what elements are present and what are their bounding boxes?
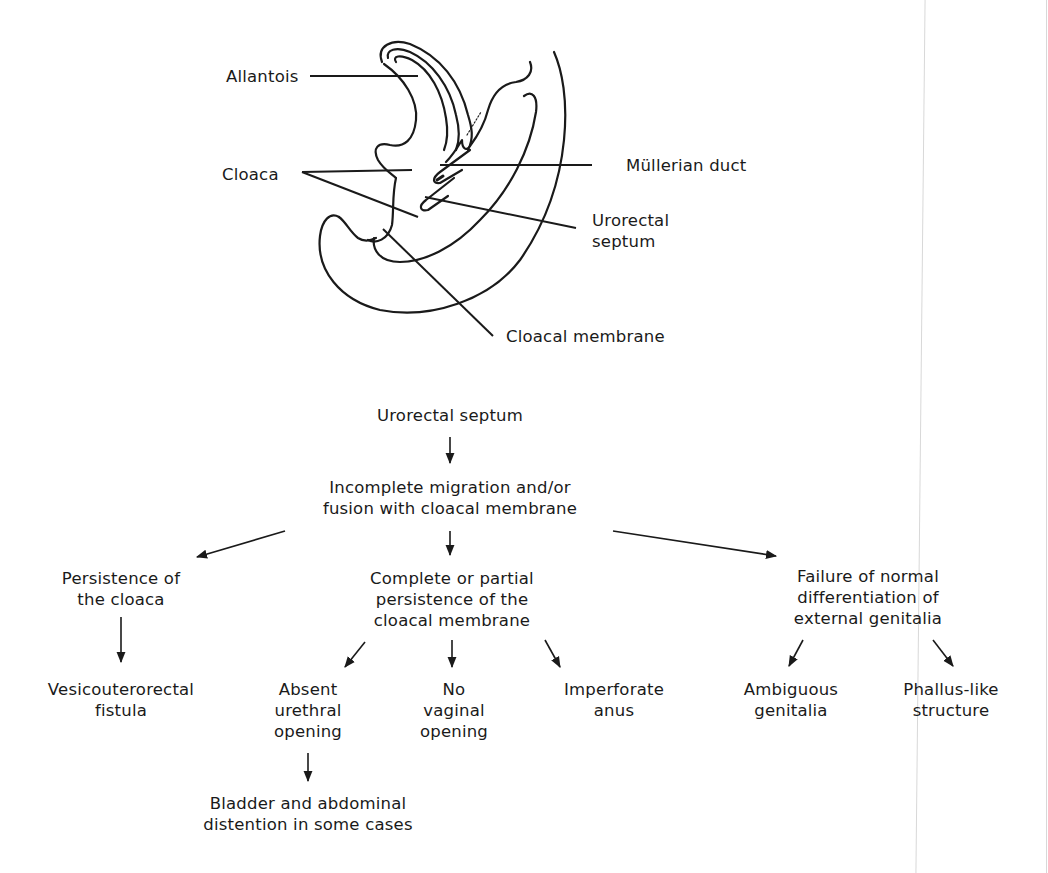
node-absent-urethral-opening: Absent urethral opening <box>274 679 342 742</box>
embryo-cloaca-illustration <box>320 42 566 313</box>
node-text: Phallus-like <box>903 679 998 700</box>
node-text: Incomplete migration and/or <box>323 477 577 498</box>
node-text: opening <box>420 721 488 742</box>
node-bladder-distention: Bladder and abdominal distention in some… <box>203 793 412 835</box>
label-cloacal-membrane: Cloacal membrane <box>506 326 665 347</box>
node-failure-of-differentiation: Failure of normal differentiation of ext… <box>794 566 942 629</box>
node-text: distention in some cases <box>203 814 412 835</box>
label-mullerian-duct: Müllerian duct <box>626 155 746 176</box>
node-text: Absent <box>274 679 342 700</box>
node-incomplete-migration: Incomplete migration and/or fusion with … <box>323 477 577 519</box>
node-text: the cloaca <box>62 589 180 610</box>
node-text: Failure of normal <box>794 566 942 587</box>
diagram-artwork <box>0 0 1048 873</box>
node-text: Vesicouterorectal <box>48 679 194 700</box>
node-text: Persistence of <box>62 568 180 589</box>
node-text: Imperforate <box>564 679 664 700</box>
node-vesicouterorectal-fistula: Vesicouterorectal fistula <box>48 679 194 721</box>
label-urorectal-septum: Urorectal septum <box>592 210 669 252</box>
node-text: Complete or partial <box>370 568 534 589</box>
node-text: urethral <box>274 700 342 721</box>
label-line: Urorectal <box>592 210 669 231</box>
node-text: Ambiguous <box>744 679 838 700</box>
node-imperforate-anus: Imperforate anus <box>564 679 664 721</box>
node-text: cloacal membrane <box>370 610 534 631</box>
node-text: fusion with cloacal membrane <box>323 498 577 519</box>
node-text: persistence of the <box>370 589 534 610</box>
node-text: anus <box>564 700 664 721</box>
node-root-urorectal-septum: Urorectal septum <box>377 405 523 426</box>
node-text: genitalia <box>744 700 838 721</box>
node-no-vaginal-opening: No vaginal opening <box>420 679 488 742</box>
node-persistence-of-cloaca: Persistence of the cloaca <box>62 568 180 610</box>
label-allantois: Allantois <box>226 66 299 87</box>
node-text: No <box>420 679 488 700</box>
label-line: septum <box>592 231 669 252</box>
node-text: opening <box>274 721 342 742</box>
node-text: external genitalia <box>794 608 942 629</box>
node-text: vaginal <box>420 700 488 721</box>
node-phallus-like-structure: Phallus-like structure <box>903 679 998 721</box>
node-text: differentiation of <box>794 587 942 608</box>
node-persistence-of-cloacal-membrane: Complete or partial persistence of the c… <box>370 568 534 631</box>
node-text: structure <box>903 700 998 721</box>
label-cloaca: Cloaca <box>222 164 279 185</box>
node-text: Urorectal septum <box>377 405 523 426</box>
node-text: Bladder and abdominal <box>203 793 412 814</box>
node-text: fistula <box>48 700 194 721</box>
node-ambiguous-genitalia: Ambiguous genitalia <box>744 679 838 721</box>
